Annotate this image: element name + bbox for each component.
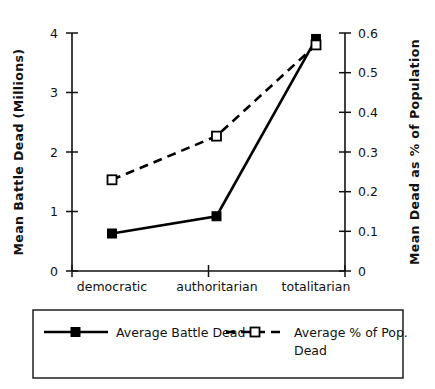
left-tick-label-2: 2 (50, 145, 58, 160)
right-tick-label-0-2: 0.2 (358, 184, 378, 199)
legend-border (33, 310, 403, 378)
left-tick-label-1: 1 (50, 204, 58, 219)
x-category-label-totalitarian: totalitarian (282, 279, 351, 294)
right-axis-tick-labels: 0 0.1 0.2 0.3 0.4 0.5 0.6 (358, 26, 378, 279)
legend-marker-open-square (251, 328, 260, 337)
right-tick-label-0-5: 0.5 (358, 65, 378, 80)
chart-figure: Mean Battle Dead (Millions) Mean Dead as… (0, 0, 435, 389)
left-axis-tick-labels: 0 1 2 3 4 (50, 26, 58, 279)
right-tick-label-0-3: 0.3 (358, 145, 378, 160)
legend-marker-filled-square (71, 328, 80, 337)
x-category-label-democratic: democratic (77, 279, 147, 294)
legend-label-average-battle-dead: Average Battle Dead (116, 325, 245, 340)
legend-entry-average-battle-dead[interactable]: Average Battle Dead (44, 325, 245, 340)
right-tick-label-0: 0 (358, 264, 366, 279)
right-tick-label-0-4: 0.4 (358, 105, 378, 120)
data-point-totalitarian-pct-pop-dead (312, 40, 321, 49)
data-point-democratic-battle-dead (108, 229, 117, 238)
left-tick-label-0: 0 (50, 264, 58, 279)
right-tick-label-0-1: 0.1 (358, 224, 378, 239)
legend-entry-average-pct-pop-dead[interactable]: Average % of Pop. Dead (226, 325, 408, 359)
x-axis-category-labels: democratic authoritarian totalitarian (77, 279, 351, 294)
legend-label-average-pct-pop-dead: Average % of Pop. (294, 325, 408, 340)
left-tick-label-3: 3 (50, 85, 58, 100)
left-tick-label-4: 4 (50, 26, 58, 41)
data-point-authoritarian-battle-dead (212, 212, 221, 221)
chart-svg: Mean Battle Dead (Millions) Mean Dead as… (0, 0, 435, 389)
x-category-label-authoritarian: authoritarian (176, 279, 257, 294)
legend-label-average-pct-pop-dead-line2: Dead (294, 343, 327, 358)
left-axis-title: Mean Battle Dead (Millions) (11, 49, 26, 256)
right-axis-title: Mean Dead as % of Population (407, 39, 422, 265)
plot-series-area (108, 34, 321, 238)
right-tick-label-0-6: 0.6 (358, 26, 378, 41)
data-point-authoritarian-pct-pop-dead (212, 132, 221, 141)
data-point-democratic-pct-pop-dead (108, 175, 117, 184)
chart-legend: Average Battle Dead Average % of Pop. De… (33, 310, 408, 378)
series-markers-average-pct-pop-dead (108, 40, 321, 184)
series-line-average-pct-pop-dead (112, 45, 316, 180)
